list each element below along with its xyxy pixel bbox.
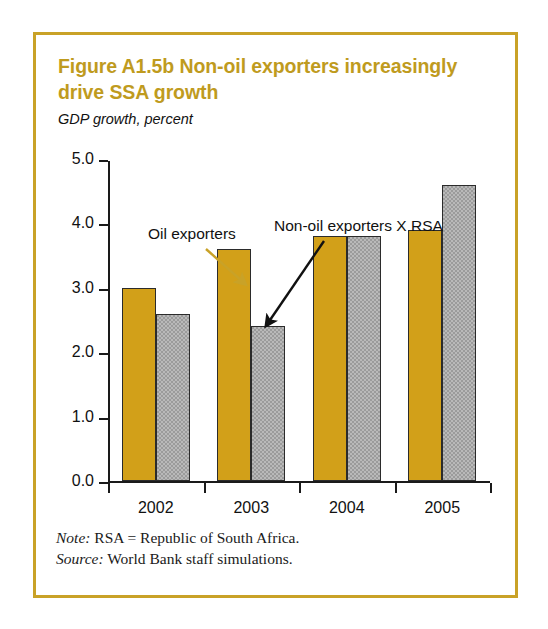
x-axis-label: 2002 [138, 499, 174, 517]
bar-2005-nonoil-exporters [442, 185, 476, 481]
x-axis-label: 2003 [233, 499, 269, 517]
y-tick [99, 160, 108, 162]
y-tick-label: 2.0 [46, 343, 94, 361]
x-tick [108, 483, 110, 493]
y-tick-label: 3.0 [46, 279, 94, 297]
chart-subtitle: GDP growth, percent [58, 111, 193, 127]
plot-area: 0.01.02.03.04.05.0 2002200320042005 [108, 161, 490, 483]
source-label: Source: [56, 550, 104, 567]
note-line: Note: RSA = Republic of South Africa. [56, 527, 299, 548]
y-tick [99, 353, 108, 355]
x-tick [395, 483, 397, 493]
x-axis-label: 2004 [329, 499, 365, 517]
note-label: Note: [56, 529, 90, 546]
annotation-nonoil-exporters: Non-oil exporters X RSA [274, 217, 443, 235]
bar-2004-nonoil-exporters [347, 236, 381, 481]
y-axis-line [108, 161, 110, 483]
y-tick [99, 418, 108, 420]
bar-2002-oil-exporters [122, 288, 156, 481]
y-tick-label: 5.0 [46, 150, 94, 168]
bar-2002-nonoil-exporters [156, 314, 190, 481]
y-tick [99, 224, 108, 226]
bar-2003-nonoil-exporters [251, 326, 285, 481]
y-tick [99, 289, 108, 291]
note-text: RSA = Republic of South Africa. [90, 529, 299, 546]
y-tick-label: 0.0 [46, 472, 94, 490]
figure-title: Figure A1.5b Non-oil exporters increasin… [58, 53, 458, 105]
y-tick-label: 4.0 [46, 214, 94, 232]
y-tick [99, 482, 108, 484]
x-tick [204, 483, 206, 493]
bar-2005-oil-exporters [408, 230, 442, 481]
x-tick [299, 483, 301, 493]
bar-2003-oil-exporters [217, 249, 251, 481]
source-line: Source: World Bank staff simulations. [56, 548, 299, 569]
x-axis-label: 2005 [424, 499, 460, 517]
annotation-oil-exporters: Oil exporters [148, 225, 236, 243]
bar-2004-oil-exporters [313, 236, 347, 481]
figure-frame: Figure A1.5b Non-oil exporters increasin… [33, 32, 518, 598]
x-tick [490, 483, 492, 493]
source-text: World Bank staff simulations. [104, 550, 293, 567]
y-tick-label: 1.0 [46, 408, 94, 426]
notes-block: Note: RSA = Republic of South Africa. So… [56, 527, 299, 569]
